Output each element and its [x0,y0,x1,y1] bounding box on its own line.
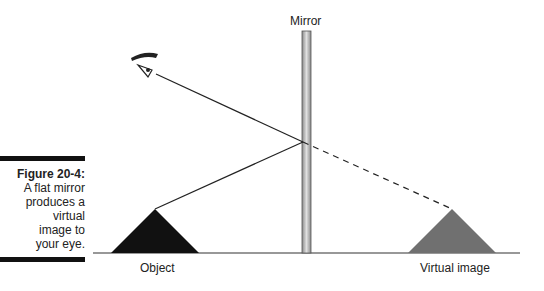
mirror-label: Mirror [290,14,321,28]
mirror-diagram [0,0,544,291]
incident-ray [155,142,303,209]
virtual-image-label: Virtual image [420,261,490,275]
reflected-ray [156,74,303,142]
virtual-ray [303,142,452,209]
object-label: Object [140,261,175,275]
eye-icon [131,53,158,77]
virtual-image-triangle [408,209,496,253]
object-triangle [111,209,199,253]
